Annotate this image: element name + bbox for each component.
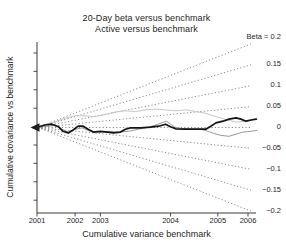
beta-fan-line-0.15 <box>38 65 251 128</box>
x-tick-label-2001: 2001 <box>22 216 52 225</box>
beta-fan-line-0.1 <box>38 86 251 128</box>
beta-line-label-Beta = 0.2: Beta = 0.2 <box>221 32 281 42</box>
x-axis-label: Cumulative variance benchmark <box>37 229 256 239</box>
x-tick-label-2006: 2006 <box>233 216 263 225</box>
beta-fan-line--0.15 <box>38 128 251 191</box>
beta-line-label-−0.1: −0.1 <box>221 164 281 174</box>
beta-line-label-−0.15: −0.15 <box>221 185 281 195</box>
beta-fan-line--0.2 <box>38 128 251 212</box>
beta-line-label-−0.2: −0.2 <box>221 206 281 216</box>
beta-fan-line--0.05 <box>38 128 251 149</box>
beta-line-label-−0.05: −0.05 <box>221 143 281 153</box>
beta-line-label-0.05: 0.05 <box>221 101 281 111</box>
beta-line-label-0.1: 0.1 <box>221 80 281 90</box>
beta-line-label-0: 0 <box>221 122 281 132</box>
x-tick-label-2005: 2005 <box>203 216 233 225</box>
x-tick-label-2003: 2003 <box>85 216 115 225</box>
y-axis-label: Cumulative covariance vs benchmark <box>6 56 15 197</box>
beta-fan-line-0.2 <box>38 44 251 128</box>
beta-fan-line--0.1 <box>38 128 251 170</box>
beta-line-label-0.15: 0.15 <box>221 59 281 69</box>
chart-title: 20-Day beta versus benchmark <box>37 13 256 23</box>
beta-vs-benchmark-figure: 20-Day beta versus benchmark Active vers… <box>0 0 286 248</box>
x-tick-label-2004: 2004 <box>156 216 186 225</box>
